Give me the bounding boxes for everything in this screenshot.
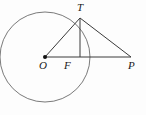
vertex-label-P: P	[128, 60, 135, 71]
vertex-label-F: F	[64, 60, 71, 71]
segment-OT	[45, 18, 80, 57]
geometry-canvas	[0, 0, 146, 115]
segment-TP	[80, 18, 131, 57]
vertex-label-T: T	[77, 2, 83, 13]
geometry-figure: T O F P	[0, 0, 146, 115]
vertex-label-O: O	[39, 60, 47, 71]
